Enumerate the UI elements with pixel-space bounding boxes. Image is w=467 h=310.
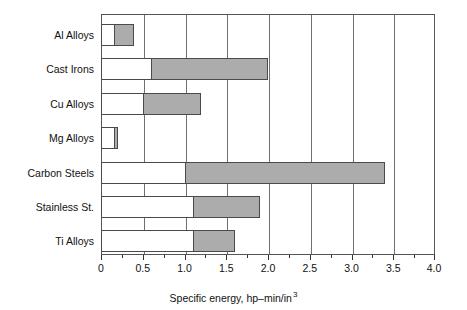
x-axis-tick-label: 3.0 [344,262,359,274]
bar-segment-range [114,24,135,46]
x-axis-major-tick [101,255,102,260]
x-axis-tick-label: 1.5 [219,262,234,274]
x-axis-major-tick [268,255,269,260]
x-axis-major-tick [310,255,311,260]
x-axis-minor-tick [164,255,165,258]
x-axis-minor-tick [289,255,290,258]
x-axis-tick-label: 4.0 [427,262,442,274]
y-axis-label-stainless-st: Stainless St. [0,201,94,213]
bar-segment-range [185,162,385,184]
x-axis-title: Specific energy, hp–min/in3 [0,288,467,305]
x-axis-minor-tick [122,255,123,258]
x-axis-major-tick [226,255,227,260]
x-axis-tick-label: 2.0 [261,262,276,274]
y-axis-label-al-alloys: Al Alloys [0,29,94,41]
bar-segment-range [193,196,260,218]
y-axis-label-cast-irons: Cast Irons [0,63,94,75]
bars-layer [101,14,435,255]
y-axis-label-ti-alloys: Ti Alloys [0,235,94,247]
bar-segment-range [151,58,268,80]
bar-chart: Al Alloys Cast Irons Cu Alloys Mg Alloys… [0,0,467,310]
x-axis-tick-label: 0 [98,262,104,274]
x-axis-major-tick [393,255,394,260]
x-axis-tick-label: 1.0 [177,262,192,274]
x-axis-tick-label: 2.5 [302,262,317,274]
x-axis-major-tick [185,255,186,260]
x-axis-major-tick [434,255,435,260]
y-axis-label-carbon-steels: Carbon Steels [0,167,94,179]
x-axis-minor-tick [414,255,415,258]
y-axis-label-cu-alloys: Cu Alloys [0,98,94,110]
x-axis-tick-label: 0.5 [135,262,150,274]
bar-segment-range [114,127,118,149]
y-axis-label-mg-alloys: Mg Alloys [0,132,94,144]
x-axis-minor-tick [331,255,332,258]
x-axis-minor-tick [372,255,373,258]
x-axis-title-superscript: 3 [293,290,297,299]
x-axis-tick-label: 3.5 [386,262,401,274]
x-axis-minor-tick [247,255,248,258]
x-axis-ticks: 0 0.5 1.0 1.5 2.0 2.5 3.0 3.5 4.0 [101,255,435,281]
x-axis-major-tick [352,255,353,260]
x-axis-minor-tick [205,255,206,258]
x-axis-title-text: Specific energy, hp–min/in [170,292,292,304]
bar-segment-range [143,93,201,115]
y-axis-labels: Al Alloys Cast Irons Cu Alloys Mg Alloys… [0,14,94,255]
x-axis-major-tick [143,255,144,260]
bar-segment-range [193,230,235,252]
